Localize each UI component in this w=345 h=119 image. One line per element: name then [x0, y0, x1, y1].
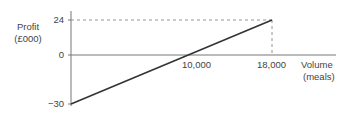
- profit-line: [71, 20, 272, 104]
- x-tick-label-10000: 10,000: [182, 59, 211, 70]
- y-tick-label-24: 24: [40, 14, 64, 25]
- x-axis-label-line2: (meals): [303, 71, 335, 82]
- x-tick-label-18000: 18,000: [257, 59, 286, 70]
- y-axis-label-line2: (£000): [6, 33, 50, 44]
- y-tick-label-0: 0: [40, 49, 64, 60]
- y-tick-label-minus30: −30: [36, 98, 64, 109]
- x-axis-label-line1: Volume: [301, 59, 333, 70]
